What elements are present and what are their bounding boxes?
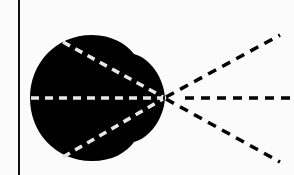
- outer-rays: [166, 35, 292, 162]
- outer-ray-lower: [166, 99, 280, 162]
- outer-ray-upper: [166, 35, 280, 97]
- ray-diagram: [0, 0, 294, 175]
- diagram-canvas: [0, 0, 294, 175]
